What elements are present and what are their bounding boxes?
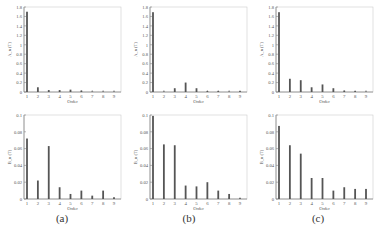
bar [343, 187, 345, 199]
bar [354, 189, 356, 199]
svg-text:8: 8 [354, 201, 357, 206]
bar [311, 178, 313, 199]
svg-text:3: 3 [300, 201, 303, 206]
svg-text:0: 0 [272, 197, 275, 202]
svg-text:2: 2 [289, 201, 292, 206]
svg-text:B_n (T): B_n (T) [259, 149, 264, 164]
bar [322, 178, 324, 199]
svg-text:0.02: 0.02 [266, 180, 275, 185]
svg-text:Order: Order [319, 206, 330, 211]
bar [278, 126, 280, 199]
svg-text:0.1: 0.1 [268, 113, 274, 118]
svg-text:0.08: 0.08 [266, 130, 275, 135]
caption-b: (b) [169, 212, 209, 224]
bar [332, 191, 334, 199]
bar [289, 145, 291, 199]
caption-a: (a) [42, 212, 82, 224]
svg-text:1: 1 [278, 201, 281, 206]
svg-text:0.06: 0.06 [266, 146, 275, 151]
caption-c: (c) [298, 212, 338, 224]
svg-text:0.04: 0.04 [266, 163, 275, 168]
svg-text:6: 6 [332, 201, 335, 206]
svg-text:7: 7 [343, 201, 346, 206]
bar [365, 189, 367, 199]
bar [300, 154, 302, 199]
svg-text:9: 9 [365, 201, 368, 206]
svg-text:4: 4 [310, 201, 313, 206]
